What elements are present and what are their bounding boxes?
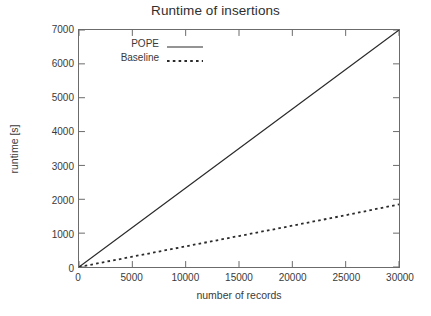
x-axis-tick-label: 25000 [316, 272, 376, 283]
y-axis-tick-labels: 01000200030004000500060007000 [26, 29, 74, 268]
x-axis-tick-label: 30000 [370, 272, 430, 283]
chart-title: Runtime of insertions [0, 3, 431, 18]
legend-item-pope[interactable]: POPE [86, 36, 204, 50]
chart-figure: Runtime of insertions runtime [s] 010002… [0, 0, 431, 316]
x-axis-tick-label: 10000 [155, 272, 215, 283]
y-axis-tick-label: 7000 [30, 24, 74, 35]
x-axis-title: number of records [78, 289, 400, 301]
legend-label: Baseline [121, 52, 166, 63]
chart-legend: POPEBaseline [86, 36, 204, 64]
plot-canvas [79, 30, 399, 267]
x-axis-tick-label: 15000 [209, 272, 269, 283]
y-axis-tick-label: 4000 [30, 126, 74, 137]
x-axis-tick-label: 20000 [263, 272, 323, 283]
series-line-pope [79, 30, 399, 267]
y-axis-title-container: runtime [s] [4, 29, 24, 268]
data-series-group [79, 30, 399, 267]
x-axis-tick-labels: 050001000015000200002500030000 [78, 272, 400, 286]
legend-item-baseline[interactable]: Baseline [86, 50, 204, 64]
y-axis-tick-label: 3000 [30, 160, 74, 171]
y-axis-tick-label: 2000 [30, 194, 74, 205]
y-axis-tick-label: 6000 [30, 58, 74, 69]
x-axis-tick-label: 5000 [102, 272, 162, 283]
legend-line-sample [166, 38, 204, 48]
plot-area [78, 29, 400, 268]
legend-line-sample [166, 52, 204, 62]
series-line-baseline [79, 204, 399, 267]
legend-label: POPE [131, 38, 166, 49]
y-axis-tick-label: 1000 [30, 228, 74, 239]
y-axis-title: runtime [s] [8, 124, 20, 173]
y-axis-tick-label: 5000 [30, 92, 74, 103]
x-axis-tick-label: 0 [48, 272, 108, 283]
